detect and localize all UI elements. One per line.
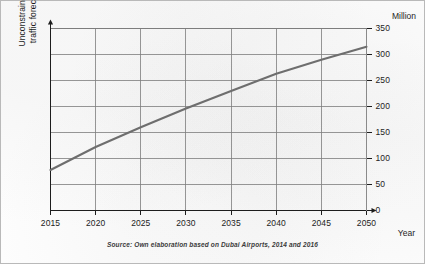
y-axis-arrowhead <box>48 20 53 25</box>
x-axis-tick-label-2040: 2040 <box>256 218 296 228</box>
gridline-group <box>51 29 367 211</box>
y-axis-tick-label-250: 250 <box>376 75 390 85</box>
y-axis-tick-label-150: 150 <box>376 127 390 137</box>
axis-group <box>48 20 377 214</box>
x-axis-tick-label-2050: 2050 <box>347 218 387 228</box>
source-note: Source: Own elaboration based on Dubai A… <box>1 241 424 248</box>
y-axis-tick-label-0: 0 <box>376 205 381 215</box>
x-axis-title: Year <box>398 228 415 238</box>
data-series-group <box>51 47 367 170</box>
chart-figure: Million Unconstrained passenger traffic … <box>0 0 425 264</box>
y-axis-tick-label-350: 350 <box>376 23 390 33</box>
y-axis-tick-label-100: 100 <box>376 153 390 163</box>
y-axis-unit-label: Million <box>392 11 416 21</box>
x-axis-tick-label-2015: 2015 <box>31 218 71 228</box>
x-axis-tick-label-2020: 2020 <box>76 218 116 228</box>
y-axis-tick-label-50: 50 <box>376 179 386 189</box>
y-axis-tick-label-200: 200 <box>376 101 390 111</box>
x-axis-tick-label-2025: 2025 <box>121 218 161 228</box>
x-axis-tick-label-2045: 2045 <box>301 218 341 228</box>
tick-mark-group <box>51 29 372 215</box>
y-axis-title-line-1: Unconstrained passenger <box>17 0 28 57</box>
y-axis-title: Unconstrained passenger traffic forecast… <box>17 0 39 57</box>
x-axis-tick-label-2035: 2035 <box>211 218 251 228</box>
y-axis-tick-label-300: 300 <box>376 49 390 59</box>
x-axis-tick-label-2030: 2030 <box>166 218 206 228</box>
forecast-line <box>51 47 367 170</box>
y-axis-title-line-2: traffic forecast (millions) <box>28 0 39 57</box>
